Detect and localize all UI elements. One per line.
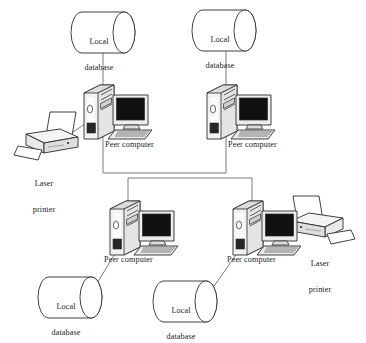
- computer-top-left: [84, 85, 152, 139]
- database-label-line2: database: [197, 62, 243, 71]
- database-label-bottom-right: Local database: [158, 290, 204, 343]
- printer-label-line2: printer: [297, 286, 343, 295]
- database-label-line1: Local: [158, 307, 204, 316]
- database-label-top-left: Local database: [76, 21, 122, 90]
- peer-label-bottom-left: Peer computer: [104, 256, 153, 265]
- printer-label-line1: Laser: [297, 260, 343, 269]
- peer-label-top-right: Peer computer: [228, 141, 277, 150]
- printer-label-left: Laser printer: [21, 163, 67, 232]
- database-label-top-right: Local database: [197, 19, 243, 88]
- computer-top-right: [207, 85, 275, 139]
- computer-bottom-left: [110, 201, 178, 255]
- printer-left: [14, 112, 78, 160]
- database-label-line1: Local: [76, 38, 122, 47]
- peer-label-top-left: Peer computer: [105, 141, 154, 150]
- printer-label-line2: printer: [21, 206, 67, 215]
- computer-bottom-right: [233, 201, 301, 255]
- database-label-line1: Local: [43, 303, 89, 312]
- database-label-line2: database: [76, 64, 122, 73]
- database-label-bottom-left: Local database: [43, 286, 89, 343]
- computer-nodes: [84, 85, 301, 255]
- printer-right: [291, 196, 355, 244]
- database-label-line2: database: [158, 333, 204, 342]
- printer-label-line1: Laser: [21, 180, 67, 189]
- peer-label-bottom-right: Peer computer: [227, 256, 276, 265]
- printer-label-right: Laser printer: [297, 243, 343, 312]
- database-label-line2: database: [43, 329, 89, 338]
- database-label-line1: Local: [197, 36, 243, 45]
